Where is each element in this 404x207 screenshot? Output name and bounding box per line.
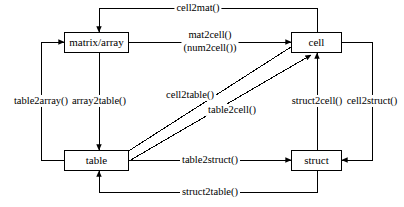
edge-label-cell2mat: cell2mat() (174, 2, 221, 14)
edge-label-mat2cell: mat2cell() (num2cell()) (181, 29, 238, 54)
edge-label-array2table: array2table() (70, 95, 128, 107)
node-cell-label: cell (309, 37, 325, 48)
node-cell[interactable]: cell (291, 32, 342, 53)
edge-label-cell2table: cell2table() (164, 89, 216, 101)
node-table-label: table (86, 155, 107, 166)
edge-label-table2struct: table2struct() (180, 154, 240, 166)
edge-label-table2array: table2array() (12, 95, 70, 107)
edge-label-table2cell: table2cell() (206, 104, 258, 116)
node-matrix-array-label: matrix/array (69, 37, 123, 48)
edge-cell2table (102, 47, 291, 168)
edge-label-mat2cell-line2: (num2cell()) (183, 42, 236, 55)
node-struct[interactable]: struct (291, 150, 342, 171)
conversion-diagram: matrix/array cell table struct cell2mat(… (0, 0, 404, 207)
edge-label-cell2struct: cell2struct() (345, 95, 400, 107)
edge-label-struct2cell: struct2cell() (290, 95, 345, 107)
node-table[interactable]: table (64, 150, 129, 171)
edge-label-struct2table: struct2table() (180, 186, 240, 198)
node-struct-label: struct (304, 155, 328, 166)
node-matrix-array[interactable]: matrix/array (64, 32, 129, 53)
edge-label-mat2cell-line1: mat2cell() (183, 29, 236, 42)
